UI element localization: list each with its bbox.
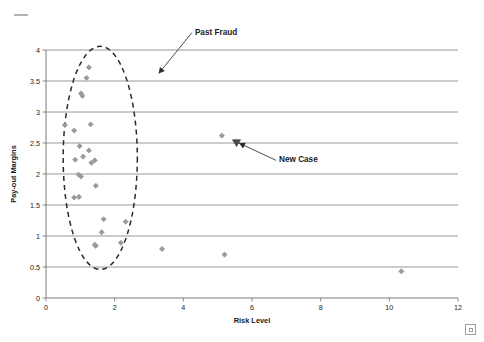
y-axis-tick-label: 2.5 (30, 139, 40, 148)
x-axis-tick-label: 6 (250, 303, 254, 312)
x-axis-tick-label: 2 (113, 303, 117, 312)
x-axis-ticks-group: 024681012 (44, 298, 462, 312)
data-point-marker (93, 183, 98, 188)
annotation-label: Past Fraud (195, 28, 237, 37)
data-point-marker (123, 219, 128, 224)
x-axis-title: Risk Level (234, 316, 271, 325)
annotation-leader-line (159, 33, 192, 74)
gridlines-group (46, 50, 458, 267)
data-points-group (62, 65, 404, 274)
y-axis-tick-label: 4 (36, 46, 40, 55)
data-point-marker (222, 252, 227, 257)
data-point-marker (159, 246, 164, 251)
annotation-arrowhead (159, 67, 165, 74)
annotation-label: New Case (279, 155, 318, 164)
data-point-marker (73, 157, 78, 162)
x-axis-tick-label: 8 (319, 303, 323, 312)
data-point-marker (101, 217, 106, 222)
scan-box-glyph (465, 324, 476, 335)
data-point-marker (88, 122, 93, 127)
x-axis-tick-label: 10 (385, 303, 393, 312)
data-point-marker (76, 194, 81, 199)
data-point-marker (399, 269, 404, 274)
data-point-marker (86, 65, 91, 70)
data-point-marker (72, 128, 77, 133)
data-point-marker (62, 122, 67, 127)
x-axis-tick-label: 4 (181, 303, 185, 312)
y-axis-tick-label: 3 (36, 108, 40, 117)
data-point-marker (99, 230, 104, 235)
data-point-marker (118, 240, 123, 245)
data-point-marker (86, 148, 91, 153)
y-axis-tick-label: 1.5 (30, 201, 40, 210)
scan-dash-mark (14, 14, 28, 16)
y-axis-tick-label: 2 (36, 170, 40, 179)
scatter-chart-figure: 024681012 00.511.522.533.54 Risk Level P… (0, 0, 484, 342)
annotation-leader-line (239, 143, 276, 160)
data-point-marker (219, 133, 224, 138)
y-axis-tick-label: 3.5 (30, 77, 40, 86)
y-axis-ticks-group: 00.511.522.533.54 (30, 46, 46, 303)
data-point-marker (72, 195, 77, 200)
y-axis-tick-label: 1 (36, 232, 40, 241)
x-axis-tick-label: 12 (454, 303, 462, 312)
y-axis-title: Pay-out Margins (9, 145, 18, 203)
data-point-marker (84, 75, 89, 80)
y-axis-tick-label: 0.5 (30, 263, 40, 272)
data-point-marker (77, 144, 82, 149)
data-point-marker (80, 154, 85, 159)
scatter-plot-canvas: 024681012 00.511.522.533.54 Risk Level P… (0, 0, 484, 342)
y-axis-tick-label: 0 (36, 294, 40, 303)
x-axis-tick-label: 0 (44, 303, 48, 312)
